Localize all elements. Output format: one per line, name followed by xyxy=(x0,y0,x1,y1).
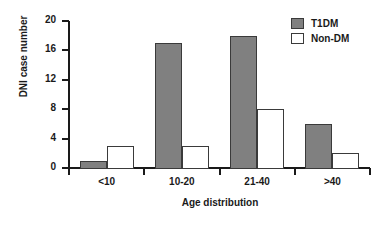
x-axis-title: Age distribution xyxy=(69,197,371,208)
x-tick-label: <10 xyxy=(67,176,147,187)
y-tick-label: 20 xyxy=(30,14,56,25)
chart-legend: T1DM Non-DM xyxy=(291,18,349,44)
legend-item-t1dm: T1DM xyxy=(291,18,349,29)
legend-label-nondm: Non-DM xyxy=(311,33,349,44)
y-tick-mark xyxy=(62,79,69,81)
bar-non-dm-40 xyxy=(332,153,359,169)
y-tick-mark xyxy=(62,108,69,110)
y-tick-label: 4 xyxy=(30,132,56,143)
x-tick-label: 10-20 xyxy=(142,176,222,187)
bar-chart: DNI case number 048121620 <1010-2021-40>… xyxy=(0,0,387,229)
legend-item-nondm: Non-DM xyxy=(291,33,349,44)
x-tick-label: >40 xyxy=(292,176,372,187)
x-tick-mark xyxy=(68,168,70,175)
x-tick-label: 21-40 xyxy=(217,176,297,187)
legend-swatch-icon-nondm xyxy=(291,33,304,44)
bar-t1dm-10 xyxy=(80,161,107,169)
y-tick-mark xyxy=(62,49,69,51)
x-tick-mark xyxy=(369,168,371,175)
y-axis-line xyxy=(68,21,70,169)
x-tick-mark xyxy=(294,168,296,175)
y-tick-label: 8 xyxy=(30,102,56,113)
bar-t1dm-40 xyxy=(305,124,332,169)
bar-t1dm-1020 xyxy=(155,43,182,169)
bar-non-dm-10 xyxy=(107,146,134,169)
bar-t1dm-2140 xyxy=(230,36,257,169)
y-tick-mark xyxy=(62,138,69,140)
y-tick-label: 12 xyxy=(30,73,56,84)
y-tick-label: 0 xyxy=(30,161,56,172)
legend-swatch-icon-t1dm xyxy=(291,18,304,29)
bar-non-dm-2140 xyxy=(257,109,284,169)
legend-label-t1dm: T1DM xyxy=(311,18,338,29)
y-axis-title: DNI case number xyxy=(18,0,29,132)
bar-non-dm-1020 xyxy=(182,146,209,169)
y-tick-mark xyxy=(62,20,69,22)
x-tick-mark xyxy=(143,168,145,175)
x-tick-mark xyxy=(219,168,221,175)
y-tick-label: 16 xyxy=(30,43,56,54)
